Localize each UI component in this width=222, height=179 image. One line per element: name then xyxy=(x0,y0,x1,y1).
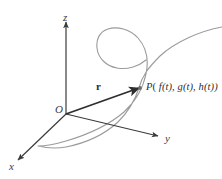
y-axis xyxy=(66,114,158,136)
space-curve-figure: z y x O r P( f(t), g(t), h(t)) xyxy=(0,0,222,179)
x-axis-label: x xyxy=(9,161,14,172)
z-axis-label: z xyxy=(63,12,67,23)
component-h-arg: (t)) xyxy=(204,81,218,92)
component-f-arg: (t), xyxy=(162,81,178,92)
x-axis xyxy=(18,114,66,160)
point-p-label: P( f(t), g(t), h(t)) xyxy=(146,82,218,93)
point-p-marker xyxy=(138,86,142,90)
origin-label: O xyxy=(55,104,63,115)
y-axis-label: y xyxy=(165,133,170,144)
position-vector-label: r xyxy=(96,81,101,92)
component-g-arg: (t), xyxy=(183,81,199,92)
